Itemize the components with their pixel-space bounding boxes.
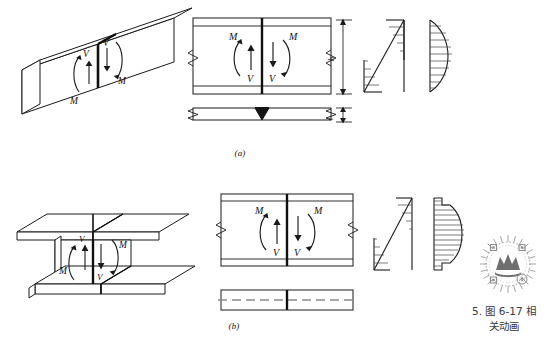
panel-b-iso-label-M-right: M: [118, 240, 128, 250]
panel-a-isometric-rect-beam: V V M M: [8, 6, 184, 134]
figure-canvas: V V M M: [0, 0, 558, 356]
panel-a-dimension-lines: h t: [330, 12, 356, 137]
panel-b-isometric-i-beam: V V M M: [5, 192, 197, 320]
panel-a-iso-label-M-left: M: [69, 96, 79, 106]
annotation-line-1: 5. 图 6-17 相: [452, 304, 556, 319]
animation-qr-badge[interactable]: [478, 234, 538, 294]
panel-a-caption: (a): [227, 148, 253, 158]
panel-b-elev-label-M-right: M: [313, 205, 323, 216]
panel-b-stress-diagrams: [370, 192, 478, 284]
panel-a-stress-diagrams: [358, 14, 470, 106]
dimension-label-h: h: [326, 57, 336, 61]
panel-a-elev-label-M-left: M: [228, 31, 238, 42]
annotation-figure-ref: 图 6-17 相: [485, 305, 536, 317]
shear-stress-diagram-b: [434, 198, 464, 270]
panel-a-orthographic-views: M M V V: [185, 10, 350, 145]
panel-b-iso-label-M-left: M: [58, 266, 68, 276]
panel-a-elev-label-M-right: M: [288, 31, 298, 42]
panel-b-elev-label-M-left: M: [254, 205, 264, 216]
bending-stress-diagram-a: [364, 20, 404, 92]
shear-stress-diagram-a: [430, 20, 452, 92]
animation-annotation-text: 5. 图 6-17 相 关动画: [452, 304, 556, 334]
panel-b-orthographic-views: M M V V: [215, 188, 365, 328]
annotation-item-number: 5.: [472, 305, 482, 317]
bending-stress-diagram-b: [374, 198, 412, 270]
panel-b-caption: (b): [221, 321, 247, 331]
panel-a-iso-label-M-right: M: [117, 76, 127, 86]
annotation-line-2: 关动画: [452, 319, 556, 334]
